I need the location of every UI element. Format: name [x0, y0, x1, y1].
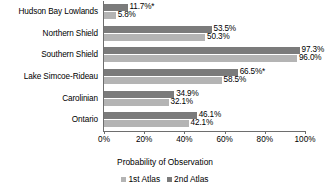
x-tick-mark [104, 131, 105, 134]
category-label: Lake Simcoe-Rideau [0, 72, 98, 81]
x-tick-label: 40% [176, 135, 192, 144]
bar-value-label: 58.5% [222, 76, 246, 84]
bar-first-atlas [104, 112, 197, 119]
legend-label: 1st Atlas [128, 174, 160, 184]
chart-legend: 1st Atlas2nd Atlas [0, 174, 330, 184]
bar-second-atlas [104, 77, 222, 84]
bar-second-atlas [104, 34, 205, 41]
x-tick-label: 0% [98, 135, 110, 144]
bar-value-label: 96.0% [297, 54, 321, 62]
bar-first-atlas [104, 69, 238, 76]
bar-group: 11.7%*5.8% [104, 1, 305, 23]
x-axis-ticks: 0%20%40%60%80%100% [103, 131, 306, 147]
plot-area: 11.7%*5.8%53.5%50.3%97.3%96.0%66.5%*58.5… [103, 1, 305, 131]
x-tick-label: 80% [257, 135, 273, 144]
bar-value-label: 42.1% [189, 119, 213, 127]
bar-group: 97.3%96.0% [104, 44, 305, 66]
bar-chart: Hudson Bay LowlandsNorthern ShieldSouthe… [0, 0, 330, 190]
bar-group: 34.9%32.1% [104, 88, 305, 110]
bar-first-atlas [104, 26, 212, 33]
bar-value-label: 50.3% [205, 33, 229, 41]
bar-second-atlas [104, 99, 169, 106]
x-tick-mark [225, 131, 226, 134]
x-tick-mark [144, 131, 145, 134]
bar-group: 66.5%*58.5% [104, 66, 305, 88]
legend-swatch-icon [121, 177, 126, 182]
category-label: Carolinian [0, 94, 98, 103]
bar-first-atlas [104, 47, 300, 54]
x-axis-title: Probability of Observation [0, 157, 330, 167]
category-label: Ontario [0, 115, 98, 124]
bar-group: 46.1%42.1% [104, 109, 305, 131]
legend-swatch-icon [167, 177, 172, 182]
category-label: Hudson Bay Lowlands [0, 7, 98, 16]
legend-label: 2nd Atlas [174, 174, 208, 184]
legend-item[interactable]: 2nd Atlas [167, 174, 208, 184]
x-tick-mark [265, 131, 266, 134]
bar-second-atlas [104, 55, 297, 62]
bar-value-label: 5.8% [116, 11, 136, 19]
category-label: Northern Shield [0, 29, 98, 38]
bar-second-atlas [104, 12, 116, 19]
x-tick-mark [184, 131, 185, 134]
bar-second-atlas [104, 120, 189, 127]
x-tick-label: 60% [216, 135, 232, 144]
bar-group: 53.5%50.3% [104, 23, 305, 45]
x-tick-label: 20% [136, 135, 152, 144]
x-tick-label: 100% [295, 135, 316, 144]
bar-first-atlas [104, 91, 174, 98]
bar-value-label: 32.1% [169, 98, 193, 106]
x-tick-mark [305, 131, 306, 134]
legend-item[interactable]: 1st Atlas [121, 174, 160, 184]
category-axis-labels: Hudson Bay LowlandsNorthern ShieldSouthe… [0, 0, 101, 131]
category-label: Southern Shield [0, 50, 98, 59]
